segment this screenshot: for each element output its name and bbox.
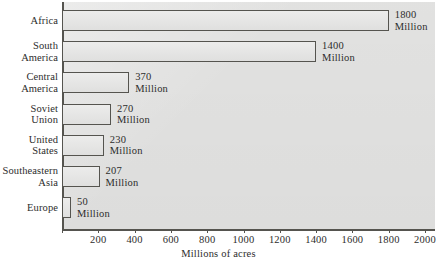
x-axis-tick	[135, 229, 136, 233]
x-axis-tick-label: 2000	[414, 234, 436, 245]
x-axis-tick-label: 1600	[341, 234, 363, 245]
category-label: Africa	[0, 15, 58, 27]
bar-value-number: 230	[110, 134, 126, 145]
category-label-line: America	[0, 83, 58, 95]
bar-value-label: 230Million	[110, 134, 143, 157]
category-label: SoutheasternAsia	[0, 165, 58, 188]
x-axis-tick-label: 200	[90, 234, 106, 245]
x-axis-tick	[98, 229, 99, 233]
category-label-line: States	[0, 145, 58, 157]
bar-value-label: 207Million	[106, 165, 139, 188]
x-axis-line	[62, 229, 435, 231]
category-label-line: Central	[0, 71, 58, 83]
bar-value-number: 207	[106, 165, 122, 176]
x-axis-tick-label: 1400	[305, 234, 327, 245]
bar-value-number: 370	[135, 71, 151, 82]
x-axis-tick-label: 600	[163, 234, 179, 245]
category-label: Europe	[0, 202, 58, 214]
bar-value-unit: Million	[77, 208, 110, 220]
category-label-line: Union	[0, 114, 58, 126]
x-axis-tick	[280, 229, 281, 233]
x-axis-tick	[389, 229, 390, 233]
x-axis-title: Millions of acres	[0, 248, 437, 259]
bar-value-label: 1800Million	[395, 9, 428, 32]
bar-value-number: 270	[117, 103, 133, 114]
x-axis-tick-label: 1000	[233, 234, 255, 245]
category-label-line: Asia	[0, 177, 58, 189]
bar-value-number: 50	[77, 196, 88, 207]
bar	[62, 135, 104, 156]
bar-value-number: 1800	[395, 9, 417, 20]
bar-value-label: 270Million	[117, 103, 150, 126]
bar	[62, 72, 129, 93]
bar-value-unit: Million	[117, 114, 150, 126]
bar-value-unit: Million	[110, 145, 143, 157]
bar-value-unit: Million	[135, 83, 168, 95]
bar-value-label: 50Million	[77, 196, 110, 219]
x-axis-tick	[171, 229, 172, 233]
x-axis-tick	[207, 229, 208, 233]
bar-value-number: 1400	[322, 40, 344, 51]
x-axis-tick-label: 1200	[269, 234, 291, 245]
category-label-line: United	[0, 134, 58, 146]
x-axis-tick	[62, 229, 63, 233]
category-label-line: America	[0, 52, 58, 64]
bar	[62, 166, 100, 187]
category-label-line: Africa	[0, 15, 58, 27]
bar	[62, 197, 71, 218]
x-axis-tick-label: 800	[199, 234, 215, 245]
bar-value-unit: Million	[395, 21, 428, 33]
bar-value-label: 370Million	[135, 71, 168, 94]
bar	[62, 41, 316, 62]
x-axis-tick-label: 400	[126, 234, 142, 245]
x-axis-tick	[244, 229, 245, 233]
bar-value-unit: Million	[106, 177, 139, 189]
category-label-line: Europe	[0, 202, 58, 214]
category-label: SovietUnion	[0, 103, 58, 126]
bar-chart-figure: Africa1800MillionSouthAmerica1400Million…	[0, 0, 437, 264]
x-axis-tick	[316, 229, 317, 233]
bar	[62, 104, 111, 125]
x-axis-tick-label: 1800	[378, 234, 400, 245]
category-label-line: Southeastern	[0, 165, 58, 177]
bar	[62, 10, 389, 31]
category-label-line: Soviet	[0, 103, 58, 115]
category-label-line: South	[0, 40, 58, 52]
category-label: UnitedStates	[0, 134, 58, 157]
bar-value-label: 1400Million	[322, 40, 355, 63]
x-axis-tick	[425, 229, 426, 233]
category-label: CentralAmerica	[0, 71, 58, 94]
x-axis-tick	[352, 229, 353, 233]
bar-value-unit: Million	[322, 52, 355, 64]
category-label: SouthAmerica	[0, 40, 58, 63]
